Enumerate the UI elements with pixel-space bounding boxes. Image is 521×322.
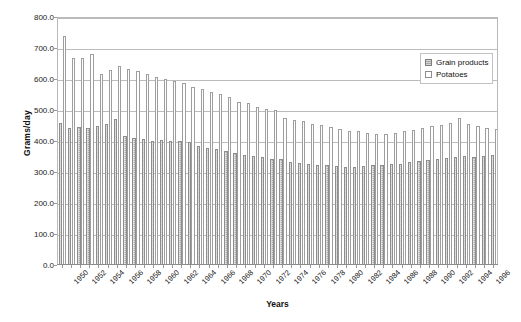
bar-grain-products bbox=[224, 151, 227, 264]
x-tick-label: 1964 bbox=[200, 268, 218, 286]
bar-potatoes bbox=[164, 79, 167, 264]
bar-potatoes bbox=[384, 134, 387, 264]
bar-group bbox=[389, 18, 398, 264]
bar-group bbox=[150, 18, 159, 264]
bar-grain-products bbox=[160, 140, 163, 264]
bar-potatoes bbox=[293, 120, 296, 264]
bar-grain-products bbox=[426, 160, 429, 264]
bar-grain-products bbox=[362, 166, 365, 264]
legend-swatch-grain-icon bbox=[425, 59, 432, 66]
bar-group bbox=[104, 18, 113, 264]
x-tick-label: 1984 bbox=[384, 268, 402, 286]
x-tick-label: 1952 bbox=[90, 268, 108, 286]
bar-potatoes bbox=[338, 129, 341, 264]
legend-swatch-potato-icon bbox=[425, 71, 432, 78]
x-tick-label: 1990 bbox=[439, 268, 457, 286]
bar-grain-products bbox=[371, 165, 374, 264]
x-tick-label: 1960 bbox=[163, 268, 181, 286]
y-tick-label: 0.0 bbox=[2, 261, 54, 270]
y-tick-label: 200.0 bbox=[2, 199, 54, 208]
bar-group bbox=[95, 18, 104, 264]
bar-grain-products bbox=[96, 126, 99, 264]
bar-grain-products bbox=[114, 119, 117, 264]
bar-grain-products bbox=[316, 165, 319, 264]
bar-potatoes bbox=[228, 97, 231, 264]
x-tick-label: 1976 bbox=[310, 268, 328, 286]
bar-potatoes bbox=[256, 107, 259, 264]
bar-grain-products bbox=[408, 162, 411, 264]
bar-group bbox=[306, 18, 315, 264]
chart-legend: Grain productsPotatoes bbox=[420, 53, 493, 84]
bar-potatoes bbox=[329, 127, 332, 264]
bar-potatoes bbox=[90, 54, 93, 264]
bar-grain-products bbox=[417, 161, 420, 264]
x-tick-label: 1970 bbox=[255, 268, 273, 286]
bar-grain-products bbox=[399, 164, 402, 264]
bar-grain-products bbox=[307, 164, 310, 264]
bar-grain-products bbox=[270, 159, 273, 264]
y-tick-label: 700.0 bbox=[2, 44, 54, 53]
x-tick-label: 1966 bbox=[218, 268, 236, 286]
bar-grain-products bbox=[491, 155, 494, 264]
bar-potatoes bbox=[430, 126, 433, 264]
bar-group bbox=[269, 18, 278, 264]
bar-grain-products bbox=[59, 123, 62, 264]
bar-group bbox=[168, 18, 177, 264]
bar-grain-products bbox=[77, 127, 80, 264]
bar-potatoes bbox=[302, 121, 305, 264]
y-tick-label: 600.0 bbox=[2, 75, 54, 84]
bar-grain-products bbox=[252, 156, 255, 264]
bar-grain-products bbox=[279, 159, 282, 264]
bar-potatoes bbox=[155, 77, 158, 264]
bar-grain-products bbox=[261, 157, 264, 264]
x-tick-label: 1996 bbox=[494, 268, 512, 286]
bar-potatoes bbox=[182, 83, 185, 264]
bar-group bbox=[361, 18, 370, 264]
bar-grain-products bbox=[289, 162, 292, 264]
bar-potatoes bbox=[265, 109, 268, 264]
bar-potatoes bbox=[449, 123, 452, 264]
bar-potatoes bbox=[412, 130, 415, 264]
bar-group bbox=[343, 18, 352, 264]
bar-group bbox=[279, 18, 288, 264]
x-tick-label: 1986 bbox=[402, 268, 420, 286]
bar-potatoes bbox=[146, 74, 149, 264]
bar-potatoes bbox=[191, 87, 194, 264]
bar-grain-products bbox=[325, 165, 328, 264]
x-tick-label: 1950 bbox=[71, 268, 89, 286]
bar-grain-products bbox=[472, 157, 475, 264]
y-axis-ticks: 0.0100.0200.0300.0400.0500.0600.0700.080… bbox=[0, 17, 54, 265]
bar-grain-products bbox=[123, 136, 126, 264]
bar-grain-products bbox=[105, 124, 108, 264]
bar-group bbox=[380, 18, 389, 264]
bar-potatoes bbox=[274, 110, 277, 264]
bar-group bbox=[315, 18, 324, 264]
bar-grain-products bbox=[390, 164, 393, 264]
x-tick-label: 1980 bbox=[347, 268, 365, 286]
bar-potatoes bbox=[81, 58, 84, 264]
bar-potatoes bbox=[201, 89, 204, 264]
y-tick-label: 300.0 bbox=[2, 168, 54, 177]
bar-grain-products bbox=[169, 141, 172, 264]
x-tick-label: 1956 bbox=[127, 268, 145, 286]
bar-potatoes bbox=[72, 58, 75, 264]
bar-grain-products bbox=[243, 155, 246, 264]
bar-potatoes bbox=[485, 128, 488, 264]
bar-potatoes bbox=[136, 71, 139, 264]
bar-grain-products bbox=[197, 146, 200, 264]
bar-group bbox=[86, 18, 95, 264]
y-tick-label: 800.0 bbox=[2, 13, 54, 22]
bar-group bbox=[159, 18, 168, 264]
bar-group bbox=[352, 18, 361, 264]
bar-group bbox=[76, 18, 85, 264]
bar-grain-products bbox=[344, 167, 347, 264]
bar-potatoes bbox=[320, 125, 323, 264]
bar-grain-products bbox=[206, 148, 209, 264]
bar-group bbox=[177, 18, 186, 264]
bar-grain-products bbox=[215, 149, 218, 264]
bar-group bbox=[122, 18, 131, 264]
bar-potatoes bbox=[394, 133, 397, 264]
x-tick-label: 1994 bbox=[476, 268, 494, 286]
bar-grain-products bbox=[151, 141, 154, 264]
bar-grain-products bbox=[132, 138, 135, 264]
